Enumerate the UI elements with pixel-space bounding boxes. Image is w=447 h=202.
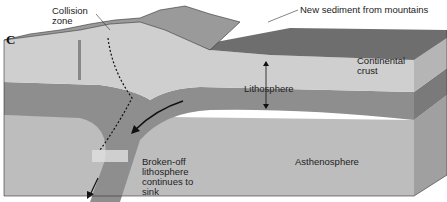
new-sediment-label: New sediment from mountains — [300, 5, 428, 15]
broken-off-lithosphere-label: Broken-off lithosphere continues to sink — [142, 157, 193, 197]
dyke — [78, 40, 81, 80]
collision-zone-label: Collision zone — [52, 6, 88, 26]
slab-break — [92, 150, 128, 162]
lithosphere-label: Lithosphere — [244, 84, 294, 94]
asthenosphere-label: Asthenosphere — [295, 157, 359, 167]
panel-letter: C — [6, 32, 15, 48]
continental-crust-label: Continental crust — [357, 56, 405, 76]
block-diagram — [0, 0, 447, 202]
